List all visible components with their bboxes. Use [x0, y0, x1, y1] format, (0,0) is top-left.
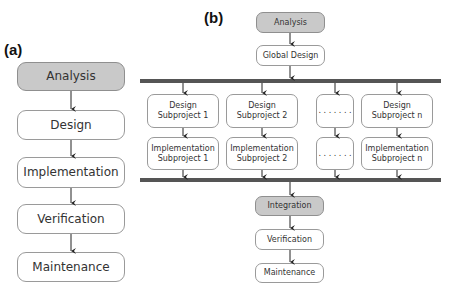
arrows-layer [0, 0, 451, 298]
